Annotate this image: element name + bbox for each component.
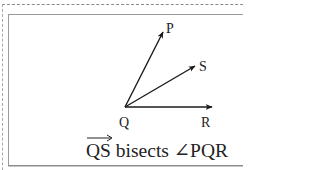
caption: QS bisects ∠PQR bbox=[86, 141, 228, 161]
point-label-s: S bbox=[199, 60, 207, 74]
vector-arrow-icon bbox=[87, 134, 113, 142]
point-label-r: R bbox=[201, 116, 210, 130]
vector-label: QS bbox=[86, 140, 111, 161]
point-label-p: P bbox=[166, 22, 174, 36]
vector-qs: QS bbox=[86, 141, 111, 161]
caption-text: bisects ∠PQR bbox=[111, 140, 228, 161]
point-label-q: Q bbox=[119, 116, 129, 130]
